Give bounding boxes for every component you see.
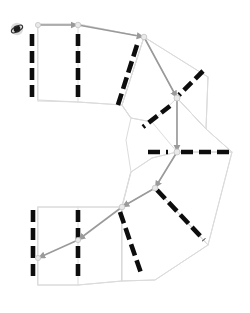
upper-lot-block [38, 24, 144, 105]
lot-block-group [38, 24, 232, 285]
lane-line-group [38, 24, 232, 285]
lower-outer-block [122, 188, 208, 281]
route-segment-group[interactable] [38, 25, 177, 258]
lane-lower-left-bottom [38, 281, 122, 285]
route-node-d[interactable] [174, 149, 180, 155]
start-position-marker[interactable] [10, 23, 23, 35]
stall-row-lower-diagonal-inner [120, 212, 142, 276]
route-node-start[interactable] [35, 22, 40, 27]
stall-row-lower-core-diagonal [157, 190, 204, 240]
route-node-end[interactable] [35, 255, 40, 260]
route-node-a[interactable] [75, 22, 81, 28]
lane-upper-left-bottom [38, 101, 122, 105]
stall-row-mid-core-diagonal [143, 106, 170, 127]
stall-row-upper-diagonal-inner [117, 45, 137, 108]
lane-core-lower-left [122, 158, 152, 207]
route-node-e[interactable] [152, 185, 158, 191]
lane-upper-diagonal [122, 37, 144, 105]
parking-lot-map[interactable] [0, 0, 250, 313]
route-segment-6[interactable] [122, 188, 155, 207]
right-upper-block [144, 37, 208, 129]
lane-inner-arc [126, 118, 131, 172]
lane-inner-curve-upper [122, 105, 131, 118]
route-node-f[interactable] [119, 204, 125, 210]
lane-core-upper-left [122, 105, 152, 122]
route-segment-7[interactable] [78, 207, 122, 240]
route-segment-3[interactable] [144, 37, 177, 98]
route-node-c[interactable] [174, 95, 180, 101]
stall-divider-group [32, 34, 231, 282]
route-node-g[interactable] [75, 237, 80, 242]
route-segment-5[interactable] [155, 152, 177, 188]
route-node-group[interactable] [35, 22, 180, 260]
lane-right-outer-1 [206, 77, 232, 152]
route-node-b[interactable] [141, 34, 147, 40]
lane-right-mid [177, 98, 206, 129]
lane-right-lower-outer [208, 152, 232, 245]
stall-row-upper-core-diagonal [179, 71, 203, 95]
route-segment-8[interactable] [38, 240, 78, 258]
lane-top-edge [38, 24, 144, 37]
lane-right-upper-outer [144, 37, 208, 77]
map-canvas[interactable] [0, 0, 250, 313]
route-segment-2[interactable] [78, 25, 144, 37]
